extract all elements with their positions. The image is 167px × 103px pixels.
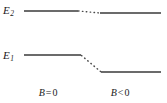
level-label-e2: E2 — [3, 5, 14, 18]
level-label-e1-base: E — [3, 49, 10, 61]
axis-label-right-variable: B — [111, 87, 117, 98]
axis-label-left-relation: = — [46, 87, 52, 98]
level-label-e1-subscript: 1 — [10, 54, 14, 63]
level-label-e1: E1 — [3, 50, 14, 63]
axis-label-left-variable: B — [39, 87, 45, 98]
e1-connector-dotted-line — [82, 56, 101, 72]
axis-label-b-equals-zero: B=0 — [20, 88, 76, 98]
energy-level-figure: E2 E1 B=0 B<0 — [0, 0, 167, 103]
e2-connector-dotted-line — [79, 11, 101, 13]
level-group-e2 — [24, 11, 161, 13]
level-label-e2-subscript: 2 — [10, 9, 14, 18]
level-group-e1 — [24, 55, 161, 72]
axis-label-b-less-than-zero: B<0 — [92, 88, 148, 98]
axis-label-right-value: 0 — [124, 87, 129, 98]
axis-label-left-value: 0 — [52, 87, 57, 98]
axis-label-right-relation: < — [118, 87, 124, 98]
level-label-e2-base: E — [3, 4, 10, 16]
